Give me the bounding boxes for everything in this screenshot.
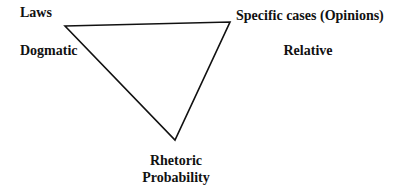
vertex-right-title: Specific cases (Opinions) xyxy=(236,8,384,24)
vertex-left-subtitle: Dogmatic xyxy=(20,43,78,59)
vertex-bottom-title: Rhetoric xyxy=(136,152,216,169)
vertex-bottom-subtitle: Probability xyxy=(136,169,216,186)
vertex-bottom-labels: Rhetoric Probability xyxy=(136,152,216,186)
vertex-right-subtitle: Relative xyxy=(282,43,334,59)
rhetoric-triangle-diagram: Laws Dogmatic Specific cases (Opinions) … xyxy=(0,0,404,194)
vertex-left-title: Laws xyxy=(20,5,52,21)
triangle-outline xyxy=(65,22,230,140)
